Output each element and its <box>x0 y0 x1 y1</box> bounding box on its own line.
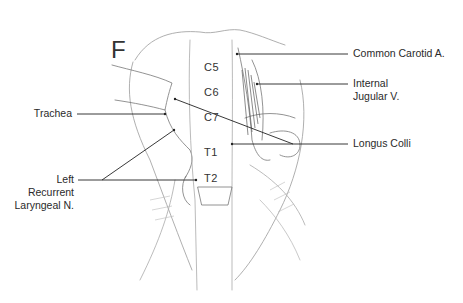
vertebra-t1: T1 <box>204 146 218 158</box>
leader-recurrent-laryngeal-diagonal <box>102 130 174 180</box>
label-left-recurrent-laryngeal: Left Recurrent Laryngeal N. <box>4 173 74 212</box>
label-trachea: Trachea <box>20 107 72 120</box>
anatomy-illustration <box>0 0 463 303</box>
panel-letter: F <box>111 36 126 64</box>
left-outline <box>129 62 192 270</box>
label-rln-line3: Laryngeal N. <box>4 199 74 212</box>
label-internal-jugular-line1: Internal <box>353 77 399 90</box>
leader-longus-colli-diagonal <box>175 99 293 144</box>
vertebra-c5: C5 <box>204 61 219 73</box>
vertebra-c6: C6 <box>204 86 219 98</box>
label-rln-line1: Left <box>4 173 74 186</box>
label-internal-jugular: Internal Jugular V. <box>353 77 399 103</box>
top-outline <box>135 30 285 60</box>
anatomical-figure: F C5 C6 C7 T1 T2 Common Carotid A. Inter… <box>0 0 463 303</box>
vertebra-t2: T2 <box>204 172 218 184</box>
label-rln-line2: Recurrent <box>4 186 74 199</box>
label-common-carotid: Common Carotid A. <box>353 47 445 60</box>
vertebra-c7: C7 <box>204 111 219 123</box>
label-longus-colli: Longus Colli <box>353 137 411 150</box>
label-internal-jugular-line2: Jugular V. <box>353 90 399 103</box>
